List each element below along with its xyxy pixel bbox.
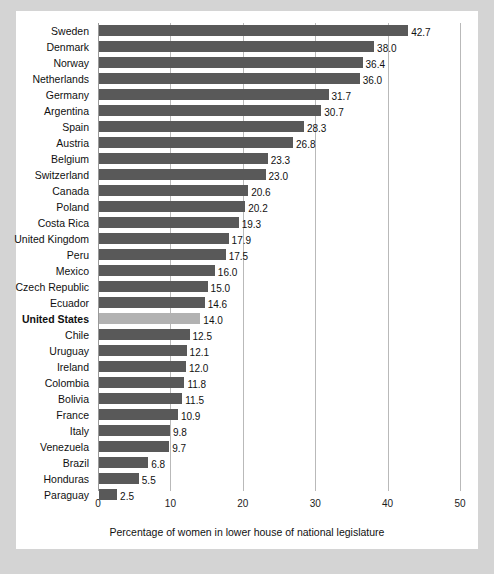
bar-value-label: 9.7 (172, 441, 186, 456)
category-label: Germany (46, 87, 89, 103)
bar-row: Mexico16.0 (98, 263, 460, 279)
bar-row: Sweden42.7 (98, 23, 460, 39)
bar-value-label: 17.5 (229, 249, 248, 264)
bar-value-label: 20.6 (251, 185, 270, 200)
bar-value-label: 6.8 (151, 457, 165, 472)
category-label: Netherlands (32, 71, 89, 87)
figure-frame: 01020304050Sweden42.7Denmark38.0Norway36… (0, 0, 494, 574)
bar-row: Poland20.2 (98, 199, 460, 215)
bar: 31.7 (99, 89, 329, 100)
bar: 36.4 (99, 57, 363, 68)
bar-value-label: 30.7 (324, 105, 343, 120)
bar-row: Canada20.6 (98, 183, 460, 199)
bar-value-label: 23.3 (271, 153, 290, 168)
category-label: Spain (62, 119, 89, 135)
figure-panel: 01020304050Sweden42.7Denmark38.0Norway36… (16, 11, 478, 549)
bar-row: Brazil6.8 (98, 455, 460, 471)
bar-value-label: 14.0 (203, 313, 222, 328)
bar: 9.8 (99, 425, 170, 436)
category-label: Czech Republic (15, 279, 89, 295)
bar-row: Belgium23.3 (98, 151, 460, 167)
bar: 5.5 (99, 473, 139, 484)
bar: 11.5 (99, 393, 182, 404)
category-label: Paraguay (44, 487, 89, 503)
bar-row: Uruguay12.1 (98, 343, 460, 359)
bar: 23.3 (99, 153, 268, 164)
bar-value-label: 28.3 (307, 121, 326, 136)
bar: 23.0 (99, 169, 266, 180)
bar-row: Argentina30.7 (98, 103, 460, 119)
bar-row: Ecuador14.6 (98, 295, 460, 311)
bar-value-label: 26.8 (296, 137, 315, 152)
category-label: Peru (67, 247, 89, 263)
category-label: Uruguay (49, 343, 89, 359)
bar-value-label: 16.0 (218, 265, 237, 280)
bar: 11.8 (99, 377, 184, 388)
category-label: Austria (56, 135, 89, 151)
bar-row: Austria26.8 (98, 135, 460, 151)
category-label: Sweden (51, 23, 89, 39)
bar-value-label: 42.7 (411, 25, 430, 40)
bar: 15.0 (99, 281, 208, 292)
bar: 2.5 (99, 489, 117, 500)
bar: 10.9 (99, 409, 178, 420)
bar-row: Paraguay2.5 (98, 487, 460, 503)
category-label: Mexico (56, 263, 89, 279)
category-label: Denmark (46, 39, 89, 55)
bar: 17.9 (99, 233, 229, 244)
category-label: Bolivia (58, 391, 89, 407)
bar: 20.6 (99, 185, 248, 196)
bar: 6.8 (99, 457, 148, 468)
bar-row: Italy9.8 (98, 423, 460, 439)
bar-value-label: 15.0 (211, 281, 230, 296)
bar-row: France10.9 (98, 407, 460, 423)
bar-row: Ireland12.0 (98, 359, 460, 375)
bar-row: Venezuela9.7 (98, 439, 460, 455)
bar-value-label: 12.1 (190, 345, 209, 360)
bar-row: Peru17.5 (98, 247, 460, 263)
x-axis-title: Percentage of women in lower house of na… (16, 526, 478, 538)
bar-row: Denmark38.0 (98, 39, 460, 55)
category-label: Switzerland (35, 167, 89, 183)
bar-value-label: 20.2 (248, 201, 267, 216)
bar: 19.3 (99, 217, 239, 228)
bar-row: United States14.0 (98, 311, 460, 327)
bar: 28.3 (99, 121, 304, 132)
bar-value-label: 38.0 (377, 41, 396, 56)
bar-row: Chile12.5 (98, 327, 460, 343)
bar-row: Bolivia11.5 (98, 391, 460, 407)
bar: 30.7 (99, 105, 321, 116)
bar-row: Czech Republic15.0 (98, 279, 460, 295)
category-label: France (56, 407, 89, 423)
bar-value-label: 17.9 (232, 233, 251, 248)
bar-row: Costa Rica19.3 (98, 215, 460, 231)
bar-value-label: 5.5 (142, 473, 156, 488)
bar-row: Spain28.3 (98, 119, 460, 135)
bar-row: Honduras5.5 (98, 471, 460, 487)
bar: 36.0 (99, 73, 360, 84)
bar-value-label: 10.9 (181, 409, 200, 424)
bar: 14.0 (99, 313, 200, 324)
bar-value-label: 9.8 (173, 425, 187, 440)
category-label: Norway (53, 55, 89, 71)
bar: 12.5 (99, 329, 190, 340)
category-label: Venezuela (40, 439, 89, 455)
bar-row: Switzerland23.0 (98, 167, 460, 183)
bar: 42.7 (99, 25, 408, 36)
bar-row: United Kingdom17.9 (98, 231, 460, 247)
category-label: Argentina (44, 103, 89, 119)
bar-value-label: 23.0 (269, 169, 288, 184)
bar: 20.2 (99, 201, 245, 212)
category-label: Colombia (45, 375, 89, 391)
bar: 17.5 (99, 249, 226, 260)
bar-value-label: 12.5 (193, 329, 212, 344)
category-label: Brazil (63, 455, 89, 471)
gridline-50 (460, 23, 461, 491)
bar-value-label: 36.4 (366, 57, 385, 72)
bar-chart: 01020304050Sweden42.7Denmark38.0Norway36… (16, 11, 478, 549)
category-label: Honduras (43, 471, 89, 487)
bar-row: Netherlands36.0 (98, 71, 460, 87)
bar: 9.7 (99, 441, 169, 452)
bar-row: Norway36.4 (98, 55, 460, 71)
bar: 16.0 (99, 265, 215, 276)
